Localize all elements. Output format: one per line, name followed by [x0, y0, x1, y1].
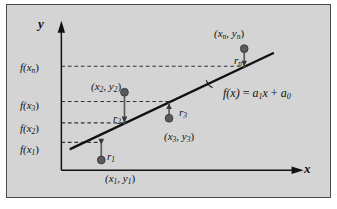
coord-label-point-n: (xn, yn) — [214, 28, 244, 40]
tick-label-fx2: f(x2) — [20, 123, 39, 135]
coord-label-point-3: (x3, y3) — [164, 131, 194, 143]
tick-label-fx3: f(x3) — [20, 100, 39, 112]
tick-label-fx1: f(x1) — [20, 144, 39, 156]
residual-label-n: rn — [234, 55, 242, 67]
data-point-n — [240, 45, 248, 53]
arrow-tip-1 — [98, 139, 104, 145]
data-point-dots — [97, 45, 248, 164]
data-point-2 — [121, 88, 129, 96]
y-axis-arrowhead — [58, 21, 65, 33]
x-axis-arrowhead — [292, 167, 304, 174]
residual-label-2: r2 — [113, 113, 121, 125]
fit-line-equation-label: f(x) = a1x + a0 — [223, 87, 291, 101]
coord-label-point-1: (x1, y1) — [105, 173, 135, 185]
x-axis-label: x — [304, 162, 311, 175]
residual-label-1: r1 — [107, 151, 115, 163]
data-point-1 — [97, 156, 105, 164]
coord-label-point-2: (x2, y2) — [91, 81, 121, 93]
regression-plot-svg — [7, 5, 331, 198]
dashed-projection-lines — [61, 66, 244, 142]
tick-label-fxn: f(xn) — [20, 62, 39, 74]
figure-stage: y x f(xn) f(x3) f(x2) f(x1) (x1, y1) (x2… — [0, 0, 337, 209]
residual-label-3: r3 — [179, 107, 187, 119]
figure-panel: y x f(xn) f(x3) f(x2) f(x1) (x1, y1) (x2… — [6, 4, 331, 198]
y-axis — [58, 21, 65, 170]
y-axis-label: y — [38, 17, 44, 30]
x-axis — [61, 167, 303, 174]
data-point-3 — [165, 114, 173, 122]
